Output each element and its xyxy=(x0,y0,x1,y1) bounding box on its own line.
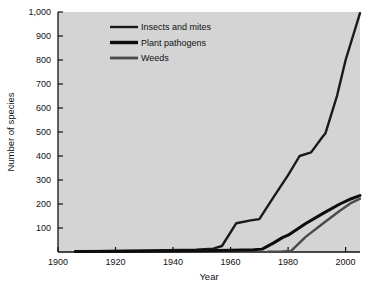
y-tick-label: 900 xyxy=(36,31,51,41)
y-tick-label: 600 xyxy=(36,103,51,113)
species-resistance-line-chart: 1002003004005006007008009001,00019001920… xyxy=(0,0,373,285)
y-tick-label: 1,000 xyxy=(28,7,51,17)
y-tick-label: 400 xyxy=(36,151,51,161)
y-tick-label: 500 xyxy=(36,127,51,137)
y-tick-label: 700 xyxy=(36,79,51,89)
y-tick-label: 200 xyxy=(36,199,51,209)
x-tick-label: 2000 xyxy=(336,257,356,267)
y-tick-label: 800 xyxy=(36,55,51,65)
y-tick-label: 100 xyxy=(36,223,51,233)
x-axis-title: Year xyxy=(199,271,218,282)
y-tick-label: 300 xyxy=(36,175,51,185)
x-tick-label: 1980 xyxy=(278,257,298,267)
y-axis-title: Number of species xyxy=(5,92,16,171)
x-tick-label: 1900 xyxy=(48,257,68,267)
x-tick-label: 1920 xyxy=(106,257,126,267)
chart-container: 1002003004005006007008009001,00019001920… xyxy=(0,0,373,285)
legend-label: Weeds xyxy=(141,53,169,63)
legend-label: Insects and mites xyxy=(141,22,212,32)
plot-background xyxy=(58,12,360,252)
x-tick-label: 1940 xyxy=(163,257,183,267)
x-tick-label: 1960 xyxy=(221,257,241,267)
legend-label: Plant pathogens xyxy=(141,38,207,48)
